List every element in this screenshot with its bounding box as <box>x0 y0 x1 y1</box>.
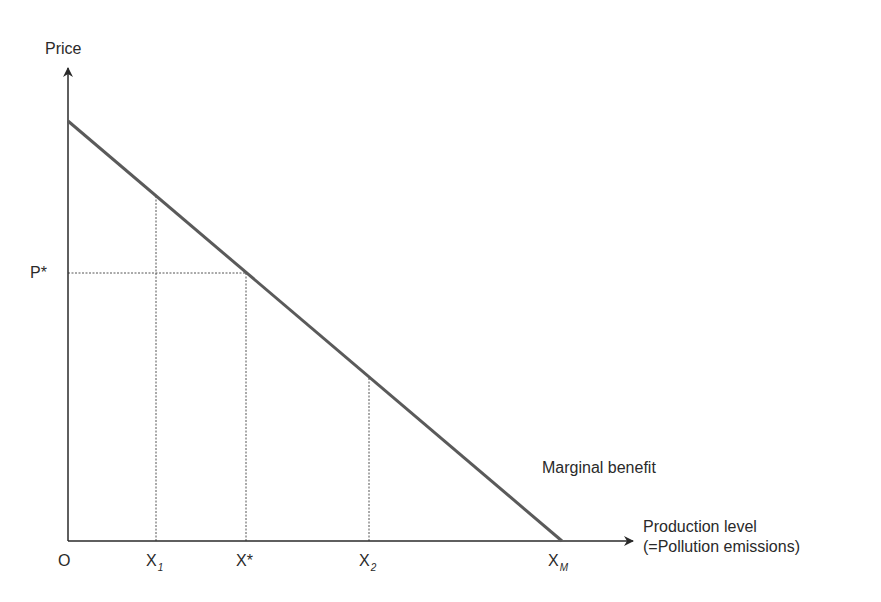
marginal-benefit-label: Marginal benefit <box>542 460 656 476</box>
xm-subscript: M <box>560 562 568 573</box>
x1-text: X <box>146 552 157 569</box>
pstar-label: P* <box>30 265 47 281</box>
x1-subscript: 1 <box>158 562 164 573</box>
xstar-label: X* <box>236 553 253 569</box>
x2-label: X2 <box>359 553 376 569</box>
x2-text: X <box>359 552 370 569</box>
y-axis-label: Price <box>45 41 81 57</box>
diagram-canvas <box>0 0 881 602</box>
x-axis-label-line1: Production level <box>643 519 757 535</box>
x2-subscript: 2 <box>371 562 377 573</box>
marginal-benefit-line <box>68 121 562 541</box>
xm-label: XM <box>548 553 568 569</box>
origin-label: O <box>58 553 70 569</box>
x-axis-label-line2: (=Pollution emissions) <box>643 539 800 555</box>
x1-label: X1 <box>146 553 163 569</box>
xm-text: X <box>548 552 559 569</box>
